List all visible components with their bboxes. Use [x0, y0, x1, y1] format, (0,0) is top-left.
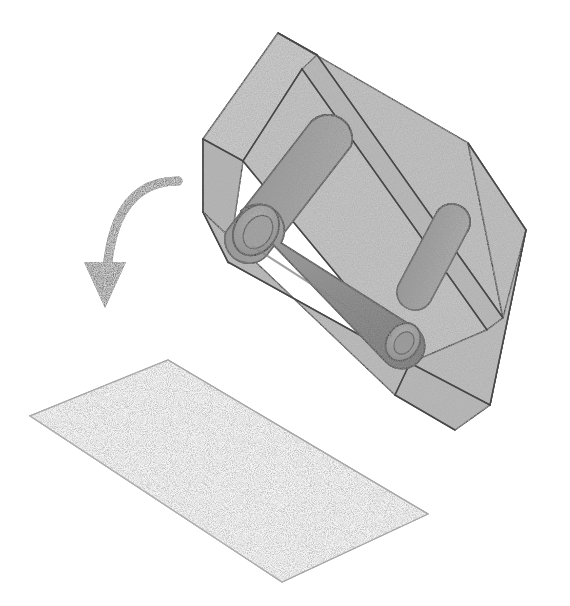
illustration-svg: [0, 0, 570, 606]
process-arrow: [84, 181, 178, 308]
released-sheet: [30, 360, 428, 582]
figure-canvas: Schematic of a rectangular mold containi…: [0, 0, 570, 606]
released-sheet-surface: [30, 360, 428, 582]
process-arrow-head: [84, 262, 126, 308]
